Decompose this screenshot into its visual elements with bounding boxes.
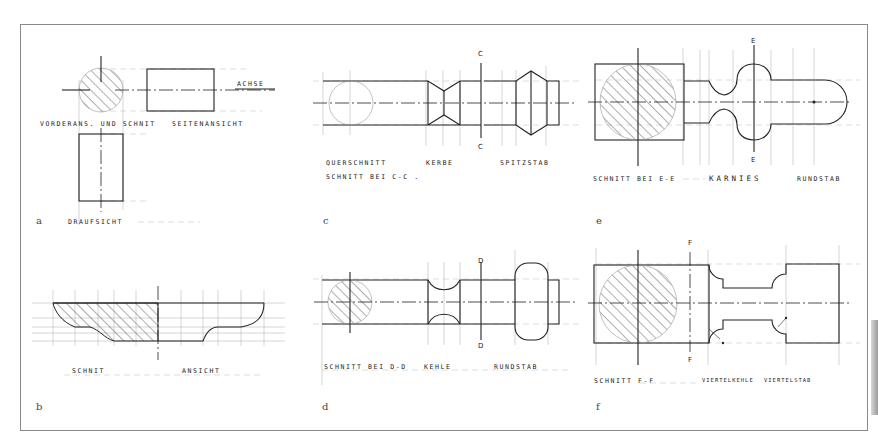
label-pointed-bar: SPITZSTAB <box>500 159 550 167</box>
hatched-section-profile <box>53 303 158 341</box>
panel-letter-a: a <box>36 215 42 226</box>
quarter-round-profile <box>709 264 839 343</box>
panel-letter-c: c <box>323 215 329 226</box>
cut-mark-f-top: F <box>688 239 692 247</box>
label-axis: ACHSE <box>237 80 265 88</box>
label-top-view: DRAUFSICHT <box>68 218 123 226</box>
cut-mark-f-bottom: F <box>688 356 692 364</box>
label-section: SCHNIT <box>72 367 105 375</box>
round-bar-bead <box>515 263 548 340</box>
label-quarter-cove: VIERTELKEHLE <box>702 377 754 383</box>
cut-mark-d-bottom: D <box>478 342 483 350</box>
cut-mark-c-bottom: C <box>478 143 483 151</box>
cut-mark-e-bottom: E <box>751 156 755 164</box>
panel-d: D D SCHNITT BEI D-D KEHLE RUNDSTAB d <box>313 250 580 412</box>
panel-letter-f: f <box>596 401 601 412</box>
label-round-bar-e: RUNDSTAB <box>797 175 841 183</box>
label-side-view: SEITENANSICHT <box>172 120 244 128</box>
panel-a: ACHSE VORDERANS. UND SCHNIT SEITENANSICH… <box>36 56 275 226</box>
cut-mark-c-top: C <box>478 50 483 58</box>
label-section-at-f: SCHNITT F-F <box>594 377 655 385</box>
cut-mark-d-top: D <box>478 257 483 265</box>
label-cross-section: QUERSCHNITT <box>326 159 387 167</box>
panel-letter-b: b <box>36 401 42 412</box>
panel-letter-d: d <box>322 401 329 412</box>
panel-letter-e: e <box>596 215 602 226</box>
panel-c: C C QUERSCHNITT KERBE SPITZSTAB SCHNITT … <box>313 50 580 226</box>
technical-drawings: ACHSE VORDERANS. UND SCHNIT SEITENANSICH… <box>0 0 878 433</box>
panel-b: SCHNIT ANSICHT b <box>32 286 285 412</box>
label-ogee: KARNIES <box>709 174 762 183</box>
diagram-page: ACHSE VORDERANS. UND SCHNIT SEITENANSICH… <box>0 0 878 433</box>
cut-mark-e-top: E <box>751 37 755 45</box>
label-section-at-e: SCHNITT BEI E-E <box>593 175 676 183</box>
panel-f: F F SCHNITT F-F VIERTELKEHLE VIERTELSTAB… <box>588 239 860 412</box>
label-notch: KERBE <box>426 159 454 167</box>
panel-e: E E SCHNITT BEI E-E KARNIES RUNDSTAB e <box>588 37 860 226</box>
label-view: ANSICHT <box>182 367 221 375</box>
label-section-at-c: SCHNITT BEI C-C . <box>326 173 420 181</box>
label-front-view-section: VORDERANS. UND SCHNIT <box>40 120 156 128</box>
label-quarter-round: VIERTELSTAB <box>764 377 811 383</box>
view-profile <box>158 303 264 341</box>
